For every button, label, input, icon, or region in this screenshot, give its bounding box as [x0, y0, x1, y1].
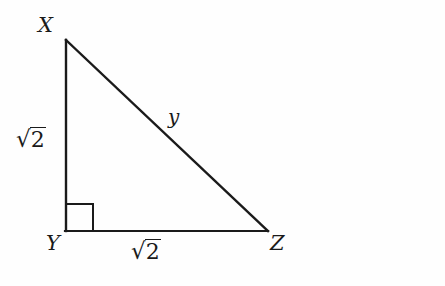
- triangle-side-xz: [66, 40, 268, 231]
- side-label-left-leg: √2: [16, 127, 46, 151]
- side-label-hypotenuse: y: [168, 107, 179, 127]
- radical-sign-icon: √: [131, 240, 146, 263]
- vertex-label-x: X: [38, 15, 53, 36]
- right-triangle-figure: [0, 0, 445, 286]
- diagram-canvas: X Y Z y √2 √2: [0, 0, 445, 286]
- radicand-value: 2: [145, 239, 161, 263]
- radicand-value: 2: [30, 127, 46, 151]
- vertex-label-z: Z: [270, 233, 285, 254]
- side-label-bottom-leg: √2: [131, 239, 161, 263]
- vertex-label-y: Y: [46, 233, 60, 254]
- radical-sign-icon: √: [16, 128, 31, 151]
- right-angle-marker-icon: [66, 204, 93, 231]
